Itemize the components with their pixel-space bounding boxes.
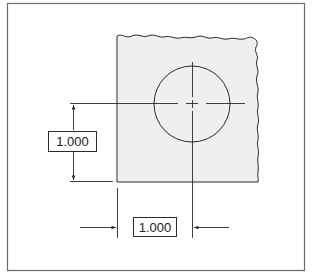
horizontal-dimension-label: 1.000 [133, 217, 177, 237]
vertical-dimension-label: 1.000 [48, 131, 97, 152]
plate [117, 35, 259, 182]
